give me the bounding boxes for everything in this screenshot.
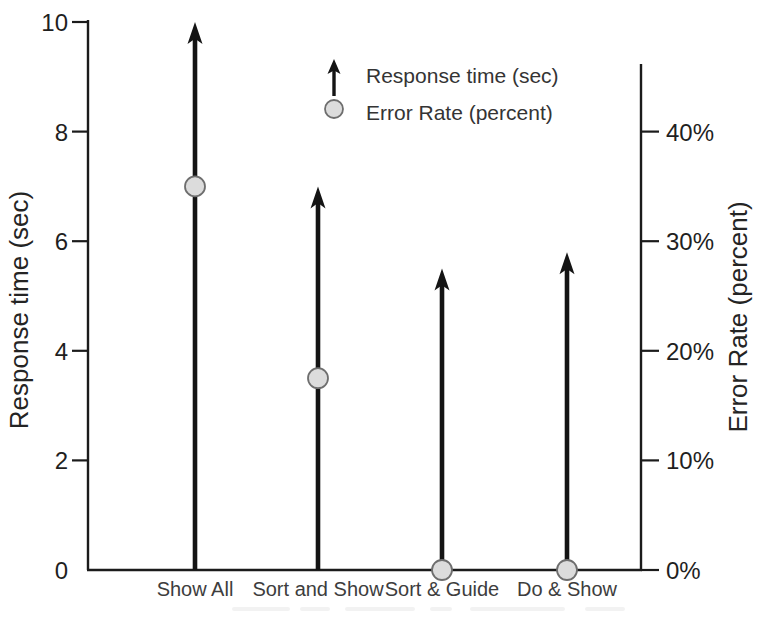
left-tick-label: 2: [55, 447, 68, 474]
category-label: Do & Show: [517, 578, 618, 600]
response-arrow: [188, 22, 203, 570]
category-label: Sort and Show: [252, 578, 384, 600]
response-arrow: [560, 252, 575, 570]
left-tick-label: 8: [55, 119, 68, 146]
cropped-caption-remnant: [300, 607, 330, 611]
error-rate-dot: [432, 560, 452, 580]
legend-label: Error Rate (percent): [366, 101, 553, 124]
error-rate-dot: [185, 176, 205, 196]
y-axis-left-title: Response time (sec): [4, 191, 34, 429]
right-tick-label: 30%: [666, 228, 714, 255]
right-tick-label: 0%: [666, 557, 701, 584]
error-rate-dot: [557, 560, 577, 580]
cropped-caption-remnant: [232, 607, 290, 611]
y-axis-right-title: Error Rate (percent): [723, 201, 753, 432]
category-label: Show All: [157, 578, 234, 600]
left-tick-label: 0: [55, 557, 68, 584]
left-tick-label: 10: [41, 9, 68, 36]
category-label: Sort & Guide: [385, 578, 500, 600]
left-tick-label: 6: [55, 228, 68, 255]
cropped-caption-remnant: [430, 607, 452, 611]
chart-canvas: 02468100%10%20%30%40%Show AllSort and Sh…: [0, 0, 772, 619]
cropped-caption-remnant: [470, 607, 565, 611]
right-tick-label: 40%: [666, 119, 714, 146]
legend: [325, 100, 343, 118]
cropped-caption-remnant: [585, 607, 625, 611]
legend-label: Response time (sec): [366, 64, 559, 87]
chart-figure: 02468100%10%20%30%40%Show AllSort and Sh…: [0, 0, 772, 619]
right-tick-label: 20%: [666, 338, 714, 365]
right-tick-label: 10%: [666, 447, 714, 474]
legend-circle-icon: [325, 100, 343, 118]
error-rate-dot: [308, 368, 328, 388]
cropped-caption-remnant: [345, 607, 415, 611]
response-arrow: [435, 269, 450, 570]
left-tick-label: 4: [55, 338, 68, 365]
legend-arrow-icon: [328, 59, 341, 96]
